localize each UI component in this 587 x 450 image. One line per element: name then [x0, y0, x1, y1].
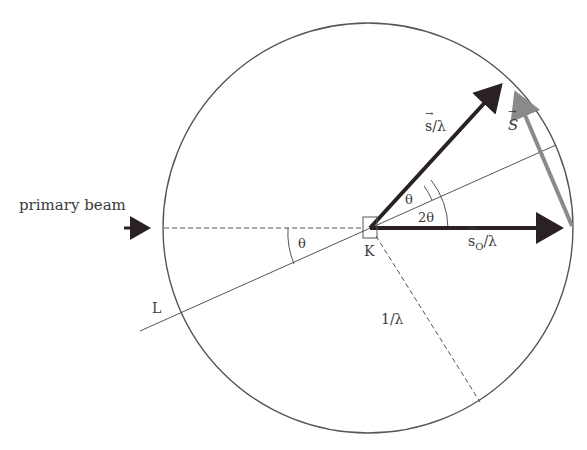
vector-arrow-icon: →: [508, 107, 516, 117]
K-label: K: [364, 243, 374, 259]
L-label: L: [152, 300, 161, 316]
theta-arc-lower: [288, 228, 294, 264]
S-vector-label: →S: [508, 116, 518, 134]
vector-arrow-icon: →: [425, 109, 433, 119]
S-vector: [516, 94, 572, 226]
s0-over-lambda-label: →sO/λ: [468, 233, 497, 252]
ewald-diagram: [0, 0, 587, 450]
vector-arrow-icon: →: [468, 224, 476, 234]
s-vector: [370, 86, 500, 228]
radius-label: 1/λ: [381, 311, 404, 327]
theta-upper-label: θ: [405, 192, 413, 207]
primary-beam-label: primary beam: [19, 196, 126, 214]
theta-arc-upper: [424, 186, 432, 200]
theta-lower-label: θ: [298, 236, 306, 251]
s-over-lambda-label: →s/λ: [425, 118, 446, 134]
two-theta-label: 2θ: [418, 210, 434, 225]
